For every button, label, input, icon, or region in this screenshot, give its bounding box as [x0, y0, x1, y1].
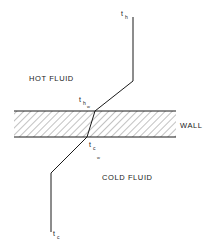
svg-text:w: w: [97, 155, 100, 160]
hot-fluid-label: HOT FLUID: [29, 74, 74, 83]
svg-text:h: h: [83, 100, 86, 106]
svg-text:c: c: [93, 145, 96, 151]
svg-text:t: t: [79, 96, 81, 103]
heat-transfer-diagram: HOT FLUID WALL COLD FLUID t h t h w t c …: [0, 0, 215, 240]
temperature-label-tcw: t c w: [89, 141, 100, 160]
svg-text:t: t: [53, 230, 55, 237]
svg-text:w: w: [87, 104, 90, 109]
temperature-label-thw: t h w: [79, 96, 90, 109]
svg-text:h: h: [125, 14, 128, 20]
wall-hatching: [14, 111, 176, 137]
wall-label: WALL: [180, 121, 203, 130]
wall: [14, 111, 176, 137]
temperature-label-tc: t c: [53, 230, 60, 240]
cold-fluid-label: COLD FLUID: [102, 173, 153, 182]
svg-text:t: t: [121, 10, 123, 17]
svg-text:c: c: [57, 234, 60, 240]
temperature-label-th: t h: [121, 10, 128, 20]
svg-text:t: t: [89, 141, 91, 148]
